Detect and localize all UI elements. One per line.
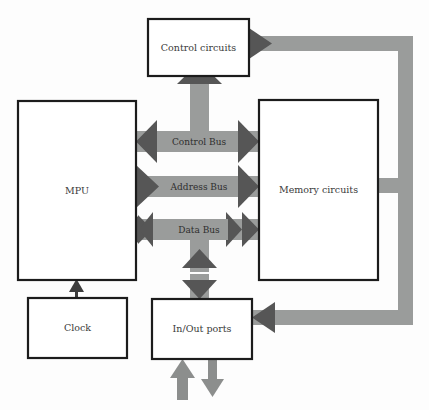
inout-in-arrowhead — [252, 302, 275, 333]
clock-to-mpu-arrow — [69, 279, 84, 298]
external-input-arrow — [170, 359, 195, 400]
rail-vertical-segment — [398, 36, 413, 325]
rail-memory-branch — [378, 178, 400, 193]
data-bus-inout-link — [182, 240, 217, 299]
address-bus-band-group: Address Bus — [136, 165, 259, 208]
block-memory-circuits[interactable]: Memory circuits — [259, 100, 378, 280]
block-control-circuits[interactable]: Control circuits — [148, 19, 249, 76]
control-bus-left-arrowhead — [136, 120, 157, 163]
external-input-head — [170, 359, 195, 378]
block-clock[interactable]: Clock — [28, 298, 127, 358]
rail-top-segment — [249, 36, 413, 51]
external-output-head — [201, 379, 224, 397]
external-output-arrow — [201, 359, 224, 397]
external-input-shaft — [177, 375, 188, 400]
inout-link-up-arrowhead — [182, 249, 217, 268]
external-output-shaft — [208, 359, 217, 382]
data-bus-right-inner-arrowhead — [226, 212, 242, 247]
control-circuits-out-arrowhead — [249, 28, 272, 59]
inout-link-down-arrowhead — [182, 280, 217, 299]
data-bus-label: Data Bus — [178, 225, 220, 235]
inout-link-divider — [182, 272, 217, 274]
rail-bottom-segment — [252, 310, 413, 325]
inout-ports-label: In/Out ports — [173, 323, 232, 334]
control-bus-label: Control Bus — [172, 137, 227, 147]
block-inout-ports[interactable]: In/Out ports — [152, 299, 252, 359]
address-bus-left-arrowhead — [136, 165, 159, 208]
clock-label: Clock — [64, 322, 91, 333]
address-bus-right-arrowhead — [238, 165, 259, 208]
control-circuits-label: Control circuits — [161, 42, 236, 53]
mpu-label: MPU — [65, 185, 89, 196]
control-bus-right-arrowhead — [238, 120, 259, 163]
block-mpu[interactable]: MPU — [18, 101, 136, 280]
memory-circuits-label: Memory circuits — [279, 184, 358, 195]
data-bus-left-arrowhead — [139, 212, 153, 247]
data-bus-right-arrowhead — [242, 212, 259, 247]
architecture-diagram: Control Bus Address Bus Data Bus — [0, 0, 429, 410]
address-bus-label: Address Bus — [170, 182, 228, 192]
diagram-canvas: Control Bus Address Bus Data Bus — [0, 0, 429, 410]
